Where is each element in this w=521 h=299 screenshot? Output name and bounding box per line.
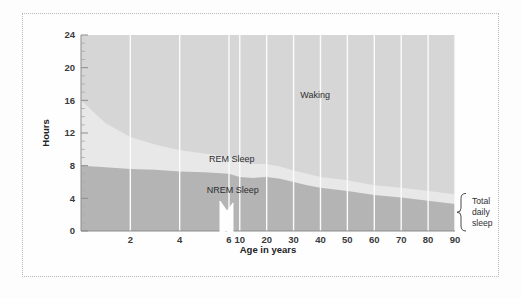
- x-tick-label-4: 4: [177, 234, 183, 245]
- bracket-label-line-3: sleep: [472, 218, 493, 228]
- y-tick-label-8: 8: [70, 160, 75, 171]
- x-tick-label-50: 50: [342, 234, 353, 245]
- x-tick-label-40: 40: [315, 234, 326, 245]
- x-tick-label-2: 2: [128, 234, 133, 245]
- plot-areas: [81, 35, 455, 231]
- x-tick-label-70: 70: [396, 234, 407, 245]
- annotation-rem-sleep: REM Sleep: [209, 154, 255, 164]
- y-tick-label-20: 20: [64, 62, 75, 73]
- y-axis: 04812162024 Hours: [40, 29, 88, 236]
- y-tick-label-16: 16: [64, 95, 75, 106]
- x-tick-label-60: 60: [369, 234, 380, 245]
- y-axis-title: Hours: [40, 119, 51, 146]
- bracket-label-line-2: daily: [472, 207, 490, 217]
- x-tick-label-90: 90: [450, 234, 461, 245]
- figure-root: 04812162024 Hours 246102030405060708090 …: [0, 0, 521, 299]
- bracket-shape: [457, 193, 466, 231]
- annotation-waking: Waking: [300, 90, 330, 100]
- total-daily-sleep-bracket: Total daily sleep: [457, 193, 493, 231]
- y-tick-label-0: 0: [70, 225, 75, 236]
- x-axis-title: Age in years: [240, 244, 297, 255]
- bracket-label-line-1: Total: [472, 196, 490, 206]
- annotation-nrem-sleep: NREM Sleep: [207, 185, 259, 195]
- y-tick-label-12: 12: [64, 127, 75, 138]
- y-tick-label-24: 24: [64, 29, 75, 40]
- y-tick-labels: 04812162024: [64, 29, 75, 236]
- x-tick-label-80: 80: [423, 234, 434, 245]
- y-tick-label-4: 4: [70, 193, 76, 204]
- sleep-across-lifespan-chart: 04812162024 Hours 246102030405060708090 …: [0, 0, 521, 299]
